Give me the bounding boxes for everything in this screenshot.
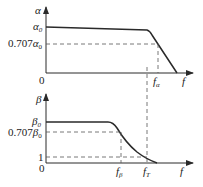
alpha-curve: [46, 27, 177, 73]
beta-chart: [46, 94, 193, 163]
f-T-label: fT: [143, 166, 150, 179]
beta-origin-label: 0: [39, 163, 45, 174]
alpha0707-tick-label: 0.707α0: [8, 38, 42, 51]
alpha-f-axis-label: f: [182, 76, 185, 87]
frequency-response-diagram: [0, 0, 203, 187]
alpha-origin-label: 0: [39, 75, 45, 86]
alpha-axis-label: α: [35, 5, 41, 16]
f-alpha-label: fα: [153, 76, 160, 89]
beta0707-tick-label: 0.707β0: [8, 127, 42, 140]
beta-axis-label: β: [36, 94, 41, 105]
f-beta-label: fβ: [116, 166, 123, 179]
alpha-chart: [46, 7, 193, 73]
alpha0-tick-label: α0: [33, 21, 42, 34]
beta-f-axis-label: f: [180, 166, 183, 177]
